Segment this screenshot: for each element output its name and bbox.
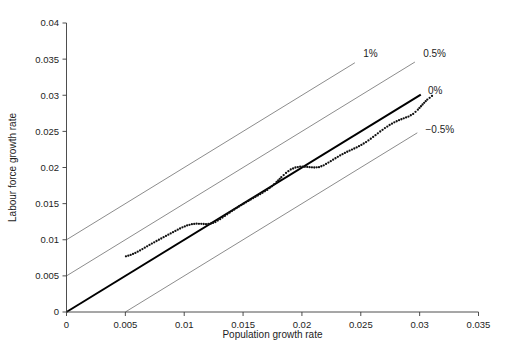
data-point bbox=[294, 166, 296, 168]
data-point bbox=[179, 227, 181, 229]
data-point bbox=[396, 120, 398, 122]
data-point bbox=[337, 156, 339, 158]
data-point bbox=[219, 218, 221, 220]
data-point bbox=[379, 130, 381, 132]
data-point bbox=[320, 165, 322, 167]
data-point bbox=[327, 161, 329, 163]
data-point bbox=[353, 147, 355, 149]
data-point bbox=[261, 192, 263, 194]
y-tick-label: 0.015 bbox=[35, 198, 59, 209]
data-point bbox=[170, 232, 172, 234]
figure-caption bbox=[0, 345, 508, 354]
data-point bbox=[221, 216, 223, 218]
y-tick-label: 0.04 bbox=[41, 17, 60, 28]
data-point bbox=[247, 200, 249, 202]
data-point bbox=[323, 164, 325, 166]
data-point bbox=[250, 198, 252, 200]
reference-line-label-minus-half-percent: −0.5% bbox=[426, 124, 455, 135]
data-point bbox=[245, 201, 247, 203]
data-point bbox=[235, 207, 237, 209]
data-point bbox=[287, 170, 289, 172]
data-point bbox=[141, 248, 143, 250]
data-point bbox=[403, 117, 405, 119]
data-point bbox=[186, 224, 188, 226]
data-point bbox=[210, 223, 212, 225]
data-point bbox=[420, 105, 422, 107]
data-point bbox=[200, 223, 202, 225]
data-point bbox=[174, 230, 176, 232]
figure-container: 00.0050.010.0150.020.0250.030.035 00.005… bbox=[0, 0, 508, 354]
data-point bbox=[341, 153, 343, 155]
data-point bbox=[330, 160, 332, 162]
data-point bbox=[130, 254, 132, 256]
y-tick-label: 0.02 bbox=[41, 162, 60, 173]
x-tick-label: 0.03 bbox=[410, 319, 429, 330]
x-tick-label: 0.035 bbox=[467, 319, 491, 330]
data-point bbox=[280, 176, 282, 178]
data-point bbox=[308, 166, 310, 168]
data-point bbox=[228, 212, 230, 214]
data-point bbox=[386, 125, 388, 127]
data-point bbox=[273, 183, 275, 185]
data-point bbox=[384, 127, 386, 129]
data-point bbox=[252, 197, 254, 199]
data-point bbox=[257, 194, 259, 196]
data-point bbox=[365, 141, 367, 143]
data-point bbox=[339, 154, 341, 156]
data-point bbox=[240, 204, 242, 206]
data-point bbox=[405, 116, 407, 118]
data-point bbox=[238, 205, 240, 207]
data-point bbox=[301, 166, 303, 168]
data-point bbox=[370, 138, 372, 140]
data-point bbox=[334, 157, 336, 159]
data-point bbox=[363, 142, 365, 144]
data-point bbox=[188, 224, 190, 226]
x-tick-label: 0.02 bbox=[293, 319, 312, 330]
data-point bbox=[217, 219, 219, 221]
data-point bbox=[233, 208, 235, 210]
data-point bbox=[360, 144, 362, 146]
data-point bbox=[429, 97, 431, 99]
data-point bbox=[155, 240, 157, 242]
data-point bbox=[132, 253, 134, 255]
data-point bbox=[367, 139, 369, 141]
growth-rate-scatter-chart: 00.0050.010.0150.020.0250.030.035 00.005… bbox=[0, 0, 508, 354]
data-point bbox=[313, 166, 315, 168]
y-tick-label: 0.005 bbox=[35, 270, 59, 281]
data-point bbox=[292, 167, 294, 169]
reference-line-label-zero-percent: 0% bbox=[428, 85, 443, 96]
reference-line-label-half-percent: 0.5% bbox=[423, 48, 446, 59]
data-point bbox=[243, 202, 245, 204]
data-point bbox=[162, 236, 164, 238]
y-tick-label: 0.01 bbox=[41, 234, 60, 245]
y-tick-label: 0 bbox=[54, 306, 59, 317]
data-point bbox=[191, 223, 193, 225]
data-point bbox=[356, 146, 358, 148]
data-point bbox=[388, 124, 390, 126]
data-point bbox=[285, 172, 287, 174]
data-point bbox=[264, 190, 266, 192]
x-tick-label: 0.005 bbox=[113, 319, 137, 330]
data-point bbox=[348, 150, 350, 152]
data-point bbox=[346, 151, 348, 153]
data-point bbox=[299, 165, 301, 167]
data-point bbox=[315, 166, 317, 168]
data-point bbox=[139, 249, 141, 251]
data-point bbox=[231, 210, 233, 212]
data-point bbox=[344, 152, 346, 154]
data-point bbox=[426, 98, 428, 100]
x-tick-label: 0.015 bbox=[231, 319, 255, 330]
data-point bbox=[417, 109, 419, 111]
data-point bbox=[151, 242, 153, 244]
data-point bbox=[332, 159, 334, 161]
data-point bbox=[177, 228, 179, 230]
data-point bbox=[254, 196, 256, 198]
data-point bbox=[400, 118, 402, 120]
data-point bbox=[193, 223, 195, 225]
data-point bbox=[391, 123, 393, 125]
data-point bbox=[290, 168, 292, 170]
y-tick-label: 0.025 bbox=[35, 126, 59, 137]
data-point bbox=[134, 252, 136, 254]
data-point bbox=[381, 129, 383, 131]
data-point bbox=[160, 237, 162, 239]
